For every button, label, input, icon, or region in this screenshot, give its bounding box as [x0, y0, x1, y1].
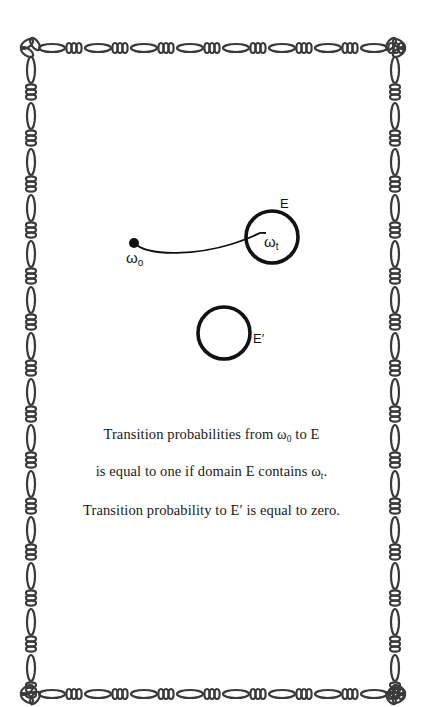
caption-text: to E [292, 426, 320, 442]
caption-line-2: is equal to one if domain E contains ωt. [0, 463, 423, 481]
caption-line-3: Transition probability to E′ is equal to… [0, 502, 423, 519]
diagram-canvas: E E′ ωo ωt [0, 0, 423, 707]
caption-text: Transition probabilities from ω [103, 426, 286, 442]
decorative-border [19, 36, 406, 705]
domain-E-prime-circle [198, 307, 250, 359]
caption-text: is equal to one if domain E contains ω [96, 463, 321, 479]
start-point-dot [129, 238, 139, 248]
caption-text: . [324, 463, 328, 479]
domain-E-prime-label: E′ [253, 331, 265, 346]
diagram-page: E E′ ωo ωt Transition probabilities from… [0, 0, 423, 707]
start-point-label: ωo [126, 249, 144, 268]
domain-E-label: E [280, 196, 289, 211]
caption-line-1: Transition probabilities from ω0 to E [0, 426, 423, 444]
caption-text: Transition probability to E′ is equal to… [83, 502, 340, 518]
end-point-label: ωt [264, 233, 279, 252]
